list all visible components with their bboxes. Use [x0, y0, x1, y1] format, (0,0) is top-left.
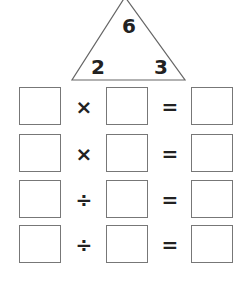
equals-sign: =: [162, 144, 179, 164]
answer-box-result[interactable]: [191, 134, 233, 172]
answer-box-result[interactable]: [191, 87, 233, 125]
equals-sign: =: [162, 235, 179, 255]
answer-box-left[interactable]: [19, 225, 61, 263]
answer-box-right[interactable]: [106, 87, 148, 125]
answer-box-right[interactable]: [106, 134, 148, 172]
equals-sign: =: [162, 97, 179, 117]
answer-box-result[interactable]: [191, 180, 233, 218]
answer-box-left[interactable]: [19, 87, 61, 125]
triangle-bottom-left-number: 2: [91, 57, 105, 77]
answer-box-right[interactable]: [106, 180, 148, 218]
triangle-top-number: 6: [122, 16, 136, 36]
equals-sign: =: [162, 190, 179, 210]
answer-box-right[interactable]: [106, 225, 148, 263]
answer-box-left[interactable]: [19, 180, 61, 218]
answer-box-result[interactable]: [191, 225, 233, 263]
answer-box-left[interactable]: [19, 134, 61, 172]
divide-sign: ÷: [76, 190, 93, 210]
multiply-sign: ×: [76, 97, 93, 117]
divide-sign: ÷: [76, 235, 93, 255]
multiply-sign: ×: [76, 144, 93, 164]
triangle-bottom-right-number: 3: [154, 57, 168, 77]
